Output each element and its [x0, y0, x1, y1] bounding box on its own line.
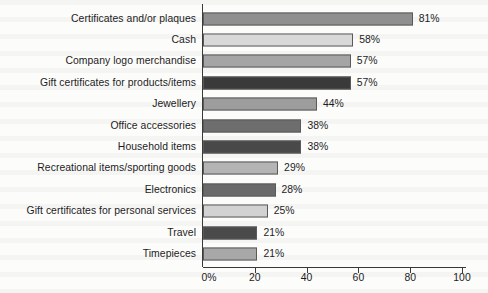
bar-container [203, 183, 276, 196]
bar [203, 12, 413, 25]
category-label: Gift certificates for personal services [27, 205, 196, 216]
bar-value-label: 57% [357, 56, 378, 67]
bar-row: Jewellery44% [0, 94, 488, 115]
bar-value-label: 38% [307, 120, 328, 131]
bar [203, 76, 351, 89]
category-label: Recreational items/sporting goods [37, 163, 196, 174]
bar-row: Travel21% [0, 222, 488, 243]
bar-row: Gift certificates for products/items57% [0, 72, 488, 93]
bar-container [203, 162, 278, 175]
category-label: Certificates and/or plaques [71, 13, 196, 24]
bar [203, 55, 351, 68]
bar-value-label: 21% [263, 227, 284, 238]
bar-value-label: 28% [282, 184, 303, 195]
bar-chart: Certificates and/or plaques81%Cash58%Com… [0, 0, 488, 293]
bar-container [203, 76, 351, 89]
x-axis-tick-labels: 0%20406080100 [0, 272, 488, 290]
category-label: Timepieces [143, 248, 196, 259]
bar [203, 247, 257, 260]
bar-row: Cash58% [0, 29, 488, 50]
bar-container [203, 226, 257, 239]
category-label: Company logo merchandise [65, 56, 196, 67]
bar-container [203, 34, 353, 47]
bar-value-label: 21% [263, 248, 284, 259]
bar-row: Electronics28% [0, 179, 488, 200]
bar-container [203, 55, 351, 68]
bar-value-label: 44% [323, 99, 344, 110]
bar-container [203, 205, 268, 218]
bar-row: Certificates and/or plaques81% [0, 8, 488, 29]
x-tick-label: 100 [453, 272, 470, 283]
bar [203, 119, 301, 132]
bar-container [203, 247, 257, 260]
bar [203, 141, 301, 154]
x-tick-label: 80 [404, 272, 416, 283]
category-label: Office accessories [110, 120, 196, 131]
x-tick-label: 0% [201, 272, 216, 283]
x-tick-label: 60 [353, 272, 365, 283]
bar [203, 162, 278, 175]
bar-container [203, 119, 301, 132]
bar-container [203, 98, 317, 111]
bar-value-label: 58% [359, 34, 380, 45]
bar-row: Office accessories38% [0, 115, 488, 136]
bar-row: Company logo merchandise57% [0, 51, 488, 72]
bar [203, 226, 257, 239]
bar-value-label: 25% [274, 205, 295, 216]
chart-rows: Certificates and/or plaques81%Cash58%Com… [0, 8, 488, 265]
category-label: Travel [167, 227, 196, 238]
bar-row: Recreational items/sporting goods29% [0, 158, 488, 179]
bar [203, 34, 353, 47]
bar-container [203, 12, 413, 25]
bar-value-label: 38% [307, 141, 328, 152]
x-tick-label: 40 [301, 272, 313, 283]
bar-row: Gift certificates for personal services2… [0, 201, 488, 222]
bar [203, 98, 317, 111]
bar-row: Household items38% [0, 136, 488, 157]
bar [203, 183, 276, 196]
bar-value-label: 29% [284, 163, 305, 174]
category-label: Cash [172, 34, 196, 45]
category-label: Household items [118, 141, 196, 152]
category-label: Jewellery [152, 99, 196, 110]
x-tick-label: 20 [249, 272, 261, 283]
bar-row: Timepieces21% [0, 243, 488, 264]
bar-container [203, 141, 301, 154]
bar-value-label: 81% [419, 13, 440, 24]
category-label: Gift certificates for products/items [40, 77, 196, 88]
bar [203, 205, 268, 218]
bar-value-label: 57% [357, 77, 378, 88]
category-label: Electronics [145, 184, 196, 195]
